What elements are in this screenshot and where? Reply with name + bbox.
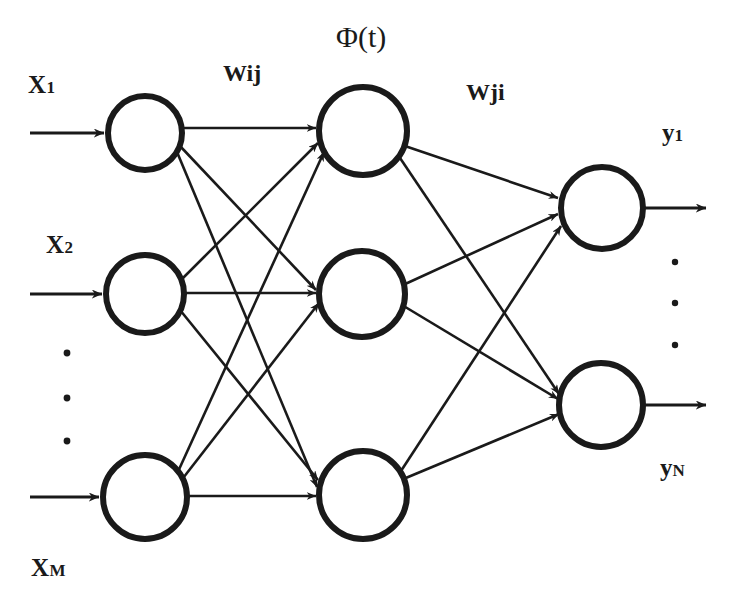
output-label-yn: yN — [660, 455, 685, 480]
input-label-x2-name: X — [46, 231, 65, 258]
input-label-x2: X2 — [46, 232, 73, 257]
output-node-2 — [559, 363, 643, 447]
output-label-y1-name: y — [662, 119, 675, 146]
input-label-x1-name: X — [28, 71, 47, 98]
hidden-to-output-edges — [398, 145, 561, 480]
input-dot-1 — [64, 350, 71, 357]
input-label-xm-sub: M — [50, 561, 66, 580]
input-node-3 — [103, 455, 187, 539]
output-arrows — [644, 208, 706, 405]
output-label-y1-sub: 1 — [675, 126, 684, 145]
hidden-node-2 — [319, 251, 405, 337]
input-dot-2 — [64, 395, 71, 402]
input-label-xm-name: X — [31, 554, 50, 581]
output-label-yn-name: y — [660, 454, 673, 481]
weights-input-hidden-label: Wij — [223, 61, 261, 85]
output-ellipsis-dots — [672, 259, 678, 348]
edge-h3-o2 — [401, 414, 559, 480]
input-label-x2-sub: 2 — [65, 238, 74, 257]
output-dot-2 — [672, 300, 678, 306]
network-graphics — [0, 0, 743, 605]
edge-h2-o1 — [403, 214, 558, 285]
edge-i1-h2 — [180, 146, 316, 290]
hidden-node-3 — [319, 451, 407, 539]
input-node-2 — [106, 255, 184, 333]
input-node-1 — [108, 96, 182, 170]
input-dot-3 — [64, 438, 71, 445]
output-label-yn-sub: N — [673, 461, 685, 480]
input-label-xm: XM — [31, 555, 66, 580]
hidden-node-1 — [319, 87, 407, 175]
weights-hidden-output-label: Wji — [466, 80, 505, 104]
input-ellipsis-dots — [64, 350, 71, 445]
edge-h3-o1 — [399, 226, 561, 474]
neural-network-diagram: Φ(t) Wij Wji X1 X2 XM y1 yN — [0, 0, 743, 605]
input-label-x1-sub: 1 — [47, 78, 56, 97]
edge-h1-o1 — [402, 145, 558, 198]
input-to-hidden-edges — [176, 128, 324, 496]
output-dot-1 — [672, 259, 678, 265]
output-dot-3 — [672, 342, 678, 348]
output-label-y1: y1 — [662, 120, 683, 145]
activation-function-label: Φ(t) — [336, 22, 386, 52]
input-label-x1: X1 — [28, 72, 55, 97]
output-node-1 — [561, 167, 643, 249]
